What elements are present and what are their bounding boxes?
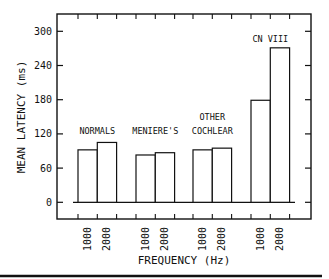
x-tick-label: 1000 <box>255 227 266 251</box>
y-tick-label: 0 <box>46 197 52 208</box>
bar <box>136 155 155 202</box>
bar <box>97 142 116 202</box>
y-tick-label: 180 <box>34 94 52 105</box>
group-label: CN VIII <box>252 34 288 44</box>
x-tick-label: 1000 <box>82 227 93 251</box>
bar <box>78 150 97 202</box>
bar <box>155 153 174 203</box>
group-label: OTHER <box>200 112 226 122</box>
x-axis-label: FREQUENCY (Hz) <box>138 254 231 267</box>
bars: NORMALSMENIERE'SOTHERCOCHLEARCN VIII <box>78 34 290 202</box>
y-tick-label: 300 <box>34 26 52 37</box>
bar <box>270 48 289 202</box>
group-label: MENIERE'S <box>132 126 178 136</box>
x-tick-label: 2000 <box>159 227 170 251</box>
group-label: COCHLEAR <box>192 126 234 136</box>
group-label: NORMALS <box>79 126 115 136</box>
y-tick-label: 120 <box>34 128 52 139</box>
x-tick-label: 1000 <box>140 227 151 251</box>
latency-bar-chart: 060120180240300 NORMALSMENIERE'SOTHERCOC… <box>0 0 329 279</box>
bar <box>212 148 231 202</box>
bar <box>251 100 270 202</box>
y-axis-label: MEAN LATENCY (ms) <box>15 61 28 174</box>
bar <box>193 150 212 202</box>
x-tick-label: 1000 <box>197 227 208 251</box>
y-tick-label: 240 <box>34 60 52 71</box>
y-tick-label: 60 <box>40 163 52 174</box>
x-tick-label: 2000 <box>101 227 112 251</box>
x-tick-label: 2000 <box>274 227 285 251</box>
x-tick-label: 2000 <box>216 227 227 251</box>
